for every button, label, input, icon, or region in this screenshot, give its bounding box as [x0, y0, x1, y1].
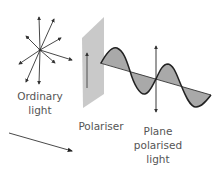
burst-arrow [39, 17, 40, 50]
burst-center [39, 49, 41, 51]
label-plane-polarised-line3: light [146, 153, 169, 165]
burst-arrow [26, 36, 40, 50]
polarisation-diagram: Ordinary light Polariser Plane polarised… [0, 0, 221, 171]
label-ordinary-light-line1: Ordinary [17, 90, 63, 102]
label-plane-polarised-line2: polarised [134, 139, 182, 151]
label-polariser: Polariser [78, 120, 124, 132]
burst-arrow [39, 50, 40, 84]
label-ordinary-light-line2: light [28, 104, 51, 116]
label-plane-polarised-line1: Plane [144, 125, 173, 137]
polarised-wave [100, 46, 211, 112]
unpolarised-light-burst [19, 17, 72, 84]
burst-arrow [40, 19, 54, 50]
propagation-direction-arrow [9, 133, 72, 151]
burst-arrow [40, 50, 72, 60]
